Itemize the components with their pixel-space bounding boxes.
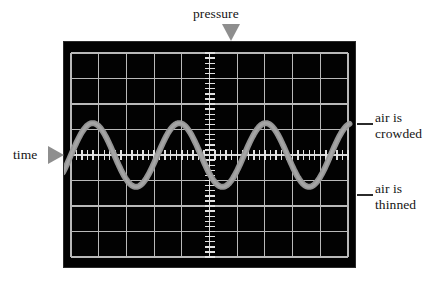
- time-axis-label: time: [13, 147, 37, 163]
- air-is-crowded-line1: air is: [375, 110, 402, 125]
- time-arrow-icon: [48, 146, 64, 164]
- oscilloscope-figure: pressure time air iscrowded air isthinne…: [0, 0, 445, 286]
- air-is-thinned-line2: thinned: [375, 197, 416, 212]
- scope-grid-and-trace: [63, 41, 356, 268]
- crowded-leader-line: [357, 123, 373, 125]
- air-is-crowded-line2: crowded: [375, 126, 422, 141]
- oscilloscope-screen: [63, 41, 356, 268]
- air-is-crowded-label: air iscrowded: [375, 110, 422, 141]
- air-is-thinned-line1: air is: [375, 181, 402, 196]
- thinned-leader-line: [357, 194, 373, 196]
- pressure-arrow-icon: [222, 24, 240, 41]
- air-is-thinned-label: air isthinned: [375, 181, 416, 212]
- pressure-axis-label: pressure: [193, 6, 239, 22]
